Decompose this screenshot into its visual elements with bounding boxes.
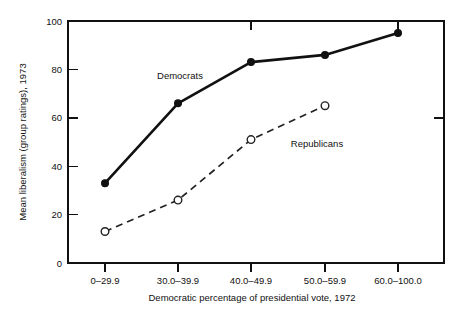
y-axis-ticks-right xyxy=(434,21,444,263)
line-chart: 100 80 60 40 20 0 0–29.9 30.0–39.9 40.0–… xyxy=(0,0,468,309)
y-axis-title: Mean liberalism (group ratings), 1973 xyxy=(17,63,28,220)
republicans-point-3 xyxy=(247,136,255,144)
democrats-line xyxy=(105,33,398,183)
democrats-point-1 xyxy=(102,180,109,187)
y-tick-label-100: 100 xyxy=(46,16,62,27)
democrats-point-2 xyxy=(175,100,182,107)
x-tick-label-4: 50.0–59.9 xyxy=(304,275,346,286)
x-axis-title: Democratic percentage of presidential vo… xyxy=(148,292,355,303)
x-tick-label-3: 40.0–49.9 xyxy=(230,275,272,286)
y-tick-label-40: 40 xyxy=(51,161,62,172)
x-axis-ticks-top xyxy=(251,21,398,30)
annotation-democrats: Democrats xyxy=(157,70,203,81)
republicans-point-4 xyxy=(321,102,329,110)
x-axis-tick-labels: 0–29.9 30.0–39.9 40.0–49.9 50.0–59.9 60.… xyxy=(90,275,421,286)
x-tick-label-5: 60.0–100.0 xyxy=(374,275,422,286)
y-tick-label-80: 80 xyxy=(51,64,62,75)
series-democrats xyxy=(102,30,402,187)
y-tick-label-60: 60 xyxy=(51,112,62,123)
series-republicans xyxy=(101,102,329,235)
annotation-republicans: Republicans xyxy=(291,138,344,149)
republicans-point-1 xyxy=(101,228,109,236)
democrats-point-5 xyxy=(395,30,402,37)
y-tick-label-20: 20 xyxy=(51,209,62,220)
x-axis-ticks xyxy=(105,263,398,272)
y-axis-tick-labels: 100 80 60 40 20 0 xyxy=(46,16,62,269)
democrats-point-3 xyxy=(248,59,255,66)
y-axis-ticks xyxy=(68,21,78,263)
x-tick-label-2: 30.0–39.9 xyxy=(157,275,199,286)
republicans-point-2 xyxy=(174,196,182,204)
democrats-point-4 xyxy=(322,52,329,59)
chart-figure: 100 80 60 40 20 0 0–29.9 30.0–39.9 40.0–… xyxy=(0,0,468,309)
plot-frame xyxy=(68,21,444,263)
x-tick-label-1: 0–29.9 xyxy=(90,275,119,286)
republicans-line xyxy=(105,106,325,232)
y-tick-label-0: 0 xyxy=(57,258,62,269)
